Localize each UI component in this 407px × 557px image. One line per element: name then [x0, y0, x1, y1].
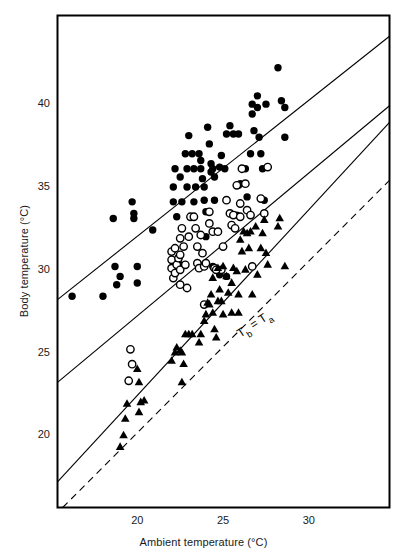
identity-line [63, 180, 390, 507]
data-points-group [68, 64, 289, 450]
data-point-filled-triangle [119, 431, 128, 439]
data-point-filled-circle [190, 165, 197, 172]
data-point-filled-triangle [195, 338, 204, 346]
data-point-open-circle [206, 208, 213, 215]
data-point-open-circle [238, 165, 245, 172]
data-point-filled-triangle [258, 229, 267, 237]
data-point-filled-triangle [121, 414, 130, 422]
y-axis-title: Body temperature (°C) [18, 161, 30, 361]
data-point-open-circle [185, 233, 192, 240]
data-point-filled-circle [274, 64, 281, 71]
data-point-filled-circle [130, 215, 137, 222]
data-point-filled-triangle [135, 408, 144, 416]
data-point-filled-circle [183, 183, 190, 190]
data-point-filled-triangle [135, 378, 144, 386]
data-point-filled-triangle [248, 290, 257, 298]
data-point-filled-circle [262, 100, 269, 107]
data-point-filled-circle [254, 92, 261, 99]
data-point-open-circle [223, 197, 230, 204]
data-point-filled-circle [235, 130, 242, 137]
data-point-filled-circle [173, 213, 180, 220]
data-point-filled-circle [209, 165, 216, 172]
data-point-open-circle [249, 263, 256, 270]
data-point-filled-triangle [274, 222, 283, 230]
data-point-filled-triangle [116, 442, 125, 450]
data-point-open-circle [192, 225, 199, 232]
data-point-filled-circle [255, 134, 262, 141]
data-point-filled-circle [199, 175, 206, 182]
x-tick-label-30: 30 [289, 514, 329, 526]
data-point-filled-circle [128, 198, 135, 205]
data-point-filled-triangle [215, 285, 224, 293]
data-point-open-circle [190, 213, 197, 220]
data-point-filled-triangle [251, 222, 260, 230]
data-point-filled-triangle [210, 325, 219, 333]
data-point-filled-circle [134, 263, 141, 270]
data-point-filled-circle [116, 273, 123, 280]
data-point-filled-circle [195, 150, 202, 157]
data-point-filled-triangle [234, 290, 243, 298]
plot-frame [58, 16, 390, 508]
data-point-filled-circle [223, 130, 230, 137]
data-point-open-circle [237, 200, 244, 207]
data-point-filled-circle [170, 198, 177, 205]
data-point-filled-circle [113, 281, 120, 288]
data-point-open-circle [219, 243, 226, 250]
data-point-filled-circle [254, 104, 261, 111]
data-point-filled-triangle [236, 235, 245, 243]
data-point-filled-circle [200, 197, 207, 204]
x-tick-label-20: 20 [117, 514, 157, 526]
data-point-filled-triangle [207, 290, 216, 298]
scatter-plot-canvas: Tb = Ta [0, 0, 407, 557]
data-point-filled-circle [110, 215, 117, 222]
data-point-open-circle [237, 213, 244, 220]
data-point-open-circle [176, 251, 183, 258]
data-point-filled-triangle [179, 359, 188, 367]
data-point-filled-triangle [257, 244, 266, 252]
data-point-filled-circle [221, 165, 228, 172]
data-point-filled-triangle [227, 308, 236, 316]
data-point-filled-circle [149, 226, 156, 233]
data-point-open-circle [233, 182, 240, 189]
data-point-filled-circle [171, 165, 178, 172]
data-point-filled-circle [247, 150, 254, 157]
data-point-open-circle [182, 261, 189, 268]
data-point-filled-triangle [167, 356, 176, 364]
data-point-open-circle [197, 231, 204, 238]
data-point-open-circle [180, 243, 187, 250]
data-point-filled-triangle [275, 214, 284, 222]
data-point-open-circle [127, 346, 134, 353]
data-point-filled-triangle [178, 378, 187, 386]
data-point-filled-triangle [208, 308, 217, 316]
data-point-filled-circle [249, 110, 256, 117]
data-point-filled-circle [226, 122, 233, 129]
data-point-filled-triangle [219, 262, 228, 270]
data-point-filled-circle [188, 150, 195, 157]
data-point-open-circle [176, 235, 183, 242]
data-point-filled-triangle [227, 278, 236, 286]
data-point-filled-circle [281, 134, 288, 141]
data-point-filled-triangle [202, 310, 211, 318]
data-point-filled-circle [281, 104, 288, 111]
data-point-filled-triangle [281, 262, 290, 270]
data-point-filled-circle [170, 183, 177, 190]
data-point-filled-triangle [212, 333, 221, 341]
data-point-filled-triangle [196, 330, 205, 338]
data-point-open-circle [206, 220, 213, 227]
data-point-filled-circle [190, 198, 197, 205]
x-tick-label-25: 25 [203, 514, 243, 526]
data-point-filled-triangle [224, 288, 233, 296]
data-point-filled-circle [178, 198, 185, 205]
data-point-open-circle [264, 163, 271, 170]
data-point-filled-circle [204, 124, 211, 131]
data-point-open-circle [247, 211, 254, 218]
data-point-open-circle [178, 225, 185, 232]
data-point-filled-circle [183, 165, 190, 172]
data-point-open-circle [194, 243, 201, 250]
x-axis-title: Ambient temperature (°C) [0, 536, 407, 548]
data-point-filled-circle [206, 140, 213, 147]
data-point-filled-circle [257, 150, 264, 157]
data-point-filled-circle [185, 132, 192, 139]
data-point-open-circle [199, 250, 206, 257]
data-point-open-circle [125, 377, 132, 384]
